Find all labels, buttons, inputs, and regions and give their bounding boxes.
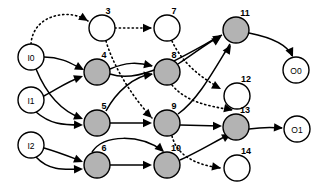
arrow-3-to-9 <box>143 109 155 121</box>
node-13[interactable] <box>223 114 249 140</box>
arrow-9-to-13 <box>213 122 222 130</box>
arrow-i1-to-4 <box>73 72 84 83</box>
node-layer <box>18 15 310 181</box>
arrow-5-to-9 <box>143 119 152 127</box>
arrow-3-to-7 <box>143 24 152 32</box>
node-label-7: 7 <box>171 6 176 16</box>
node-label-3: 3 <box>105 6 110 16</box>
node-5[interactable] <box>84 110 110 136</box>
node-label-8: 8 <box>171 50 176 60</box>
node-label-O1: O1 <box>291 125 303 135</box>
arrow-13-to-o1 <box>274 123 284 132</box>
diagram-canvas: I0I1I234567891011121314O0O1 <box>0 0 325 195</box>
node-label-I2: I2 <box>27 141 34 151</box>
edge-7-to-12 <box>172 41 220 88</box>
node-9[interactable] <box>154 110 180 136</box>
node-10[interactable] <box>154 152 180 178</box>
node-7[interactable] <box>154 15 180 41</box>
edge-11-to-O0 <box>249 33 292 56</box>
node-label-6: 6 <box>101 143 106 153</box>
arrow-i0-to-3 <box>78 13 90 25</box>
node-8[interactable] <box>154 59 180 85</box>
arrow-i2-to-6 <box>73 155 84 166</box>
node-label-10: 10 <box>171 143 181 153</box>
node-label-I0: I0 <box>27 53 34 63</box>
arrow-i1-to-5 <box>74 120 83 129</box>
node-label-13: 13 <box>240 105 250 115</box>
node-11[interactable] <box>223 17 249 43</box>
node-4[interactable] <box>84 59 110 85</box>
edge-5-to-8 <box>106 74 152 111</box>
node-label-9: 9 <box>171 101 176 111</box>
node-label-14: 14 <box>241 146 251 156</box>
arrow-6-to-10b <box>143 161 152 169</box>
arrow-7-to-12 <box>211 81 223 93</box>
node-label-O0: O0 <box>290 66 302 76</box>
node-14[interactable] <box>224 155 250 181</box>
node-label-5: 5 <box>101 101 106 111</box>
edge-10-to-13 <box>180 134 230 160</box>
arrow-4-to-8 <box>143 60 154 70</box>
node-3[interactable] <box>89 15 115 41</box>
node-label-11: 11 <box>240 8 250 18</box>
node-label-12: 12 <box>241 74 251 84</box>
node-label-I1: I1 <box>27 96 34 106</box>
node-label-4: 4 <box>101 50 106 60</box>
arrow-i2-to-6b <box>74 165 83 174</box>
network-graph: I0I1I234567891011121314O0O1 <box>0 0 325 195</box>
node-6[interactable] <box>84 152 110 178</box>
arrow-9-to-14 <box>211 162 221 172</box>
